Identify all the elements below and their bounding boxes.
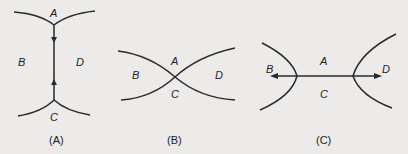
- panel-a-label-d: D: [76, 56, 84, 68]
- panel-a-label-c: C: [50, 111, 58, 123]
- panel-b-label-d: D: [215, 69, 223, 81]
- panel-c-label-b: B: [266, 63, 273, 75]
- panel-b-label-c: C: [171, 88, 179, 100]
- panel-a-up-arrow-icon: [51, 79, 57, 85]
- panel-b-caption: (B): [167, 134, 182, 146]
- panel-c-label-a: A: [319, 55, 327, 67]
- panel-a-top-left-curve: [14, 12, 54, 25]
- panel-a-down-arrow-icon: [51, 37, 57, 43]
- panel-b-label-b: B: [132, 69, 139, 81]
- panel-c: A B D C (C): [260, 34, 396, 146]
- panel-c-caption: (C): [316, 134, 331, 146]
- panel-a-bottom-left-curve: [18, 100, 54, 116]
- panel-c-right-arrow-icon: [374, 73, 382, 79]
- panel-a-top-right-curve: [54, 11, 95, 25]
- panel-b-label-a: A: [170, 55, 178, 67]
- panel-c-label-c: C: [320, 88, 328, 100]
- panel-a-bottom-right-curve: [54, 100, 90, 115]
- panel-c-label-d: D: [382, 63, 390, 75]
- panel-a-caption: (A): [49, 134, 64, 146]
- panel-b: A B D C (B): [118, 48, 235, 146]
- panel-a: A B D C (A): [14, 7, 95, 146]
- panel-a-label-a: A: [49, 7, 57, 19]
- panel-a-label-b: B: [18, 56, 25, 68]
- diagram-canvas: A B D C (A) A B D C (B) A B D C (C): [0, 0, 408, 154]
